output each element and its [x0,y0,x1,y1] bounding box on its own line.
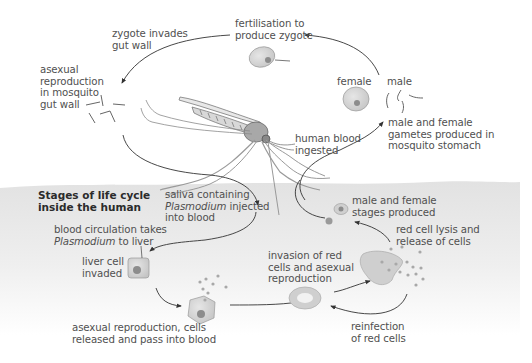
label-line: stages produced [352,207,437,219]
label-line: human blood [295,133,361,145]
label-line: asexual [40,64,104,76]
label-zygote-invades: zygote invades gut wall [112,28,188,51]
label-line: liver cell [82,256,124,268]
italic-term: Plasmodium [165,201,226,212]
label-line: release of cells [396,236,480,248]
label-line: invaded [82,268,124,280]
label-lysis: red cell lysis and release of cells [396,224,480,247]
label-reinfection: reinfection of red cells [351,321,406,344]
label-line: ingested [295,145,361,157]
label-sexual-stages: male and female stages produced [352,195,437,218]
label-line: reproduction [268,273,354,285]
label-line: red cell lysis and [396,224,480,236]
label-line: Plasmodium injected [165,201,269,213]
label-male: male [387,76,412,88]
title-line: inside the human [38,201,150,213]
male-gametes [387,90,423,113]
label-line: zygote invades [112,28,188,40]
label-line: reproduction [40,76,104,88]
label-line: Plasmodium to liver [54,236,167,248]
label-asexual-gut: asexual reproduction in mosquito gut wal… [40,64,104,110]
label-line: of red cells [351,333,406,345]
malaria-life-cycle-diagram: fertilisation to produce zygote zygote i… [0,0,532,363]
label-line: into blood [165,212,269,224]
zygote-cell [247,44,290,70]
label-blood-ingested: human blood ingested [295,133,361,156]
label-liver-invaded: liver cell invaded [82,256,124,279]
label-line: cells and asexual [268,262,354,274]
diagram-artwork [0,0,532,363]
label-line: fertilisation to [235,18,313,30]
label-line: asexual reproduction, cells [72,322,216,334]
label-circulation: blood circulation takes Plasmodium to li… [54,224,167,247]
label-line: blood circulation takes [54,224,167,236]
red-blood-cell [289,287,321,309]
italic-term: Plasmodium [54,236,115,247]
label-asexual-release: asexual reproduction, cells released and… [72,322,216,345]
female-gamete-cell [343,87,369,111]
label-line: male and female [388,117,494,129]
section-title-human-stages: Stages of life cycle inside the human [38,189,150,213]
label-line: gut wall [40,99,104,111]
label-gametes: male and female gametes produced in mosq… [388,117,494,152]
label-line: in mosquito [40,87,104,99]
label-fragment: to liver [115,236,153,247]
label-line: male and female [352,195,437,207]
label-female: female [337,76,372,88]
label-fragment: injected [226,201,269,212]
label-fertilisation: fertilisation to produce zygote [235,18,313,41]
label-saliva: saliva containing Plasmodium injected in… [165,189,269,224]
label-line: released and pass into blood [72,334,216,346]
label-line: gut wall [112,40,188,52]
label-line: gametes produced in [388,129,494,141]
label-line: produce zygote [235,30,313,42]
label-line: reinfection [351,321,406,333]
label-line: saliva containing [165,189,269,201]
label-red-invasion: invasion of red cells and asexual reprod… [268,250,354,285]
title-line: Stages of life cycle [38,189,150,201]
label-line: mosquito stomach [388,140,494,152]
label-line: invasion of red [268,250,354,262]
